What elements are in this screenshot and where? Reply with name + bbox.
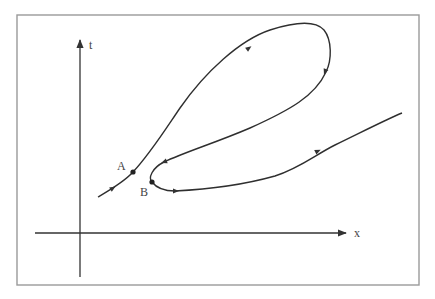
event-b-marker — [149, 179, 154, 184]
event-a-marker — [130, 169, 135, 174]
diagram-frame — [17, 15, 419, 285]
direction-arrow-icon — [245, 44, 253, 52]
worldline-curve — [98, 23, 402, 197]
event-b-label: B — [140, 185, 148, 199]
direction-arrow-icon — [160, 159, 167, 166]
spacetime-diagram: t x A B — [0, 0, 435, 299]
event-a-label: A — [117, 159, 126, 173]
x-axis-label: x — [354, 226, 360, 240]
direction-arrow-icon — [173, 189, 179, 194]
t-axis-label: t — [89, 38, 93, 52]
